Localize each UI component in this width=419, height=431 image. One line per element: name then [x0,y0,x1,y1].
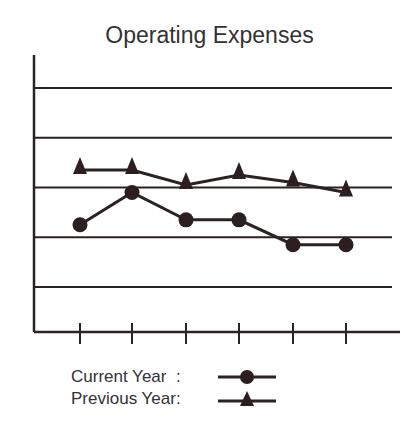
data-point [286,237,301,252]
data-point [73,157,87,174]
data-point [286,170,300,187]
data-point [232,212,247,227]
data-point [73,217,88,232]
series-current-year [73,185,354,252]
axes [34,55,400,344]
data-point [179,212,194,227]
data-point [125,157,139,174]
legend-item-previous-year: Previous Year: [71,388,278,410]
legend-label-previous-year: Previous Year: [71,388,216,410]
series-previous-year [73,157,353,196]
legend: Current Year : Previous Year: [71,366,278,410]
legend-item-current-year: Current Year : [71,366,278,388]
legend-label-current-year: Current Year : [71,366,216,388]
circle-marker-icon [216,367,278,387]
data-point [125,185,140,200]
triangle-marker-icon [216,389,278,409]
data-point [339,237,354,252]
data-point [232,162,246,179]
gridlines [34,88,392,287]
data-point [179,172,193,189]
